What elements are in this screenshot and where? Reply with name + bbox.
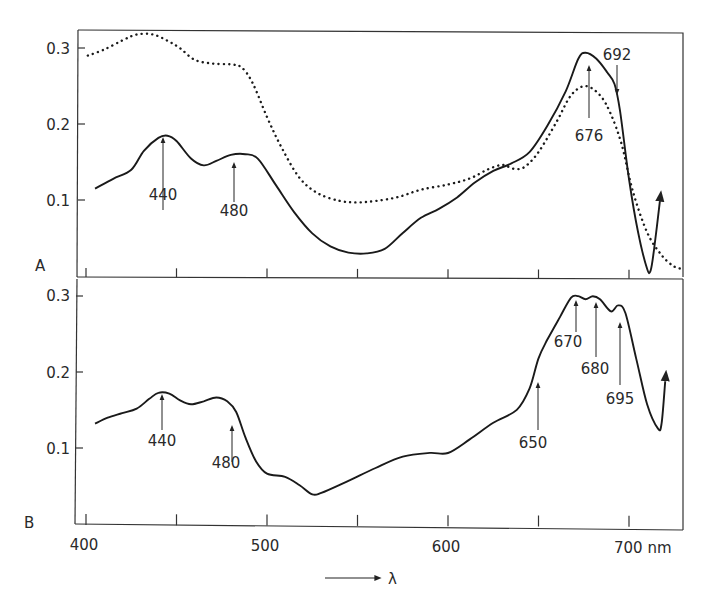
annotation-label-b-440: 440: [148, 432, 177, 450]
x-axis-label: λ: [325, 570, 397, 588]
annotation-label-b-650: 650: [519, 434, 548, 452]
panel-b-label: B: [24, 514, 34, 532]
ytick-a-0.3: 0.3: [46, 40, 70, 58]
xtick-600: 600: [432, 538, 461, 556]
peak-annotations: 440480676692440480650670680695: [148, 46, 635, 472]
annotation-label-a-440: 440: [149, 186, 178, 204]
panel-a-frame: [77, 30, 683, 277]
absorption-spectra-figure: 0.3 0.2 0.1 0.3 0.2 0.1 A B 400 500 600 …: [0, 0, 712, 611]
x-axis: [75, 524, 683, 530]
ytick-a-0.2: 0.2: [46, 116, 70, 134]
curve-b-solid: [95, 295, 665, 495]
curve-a-dotted: [88, 34, 683, 269]
spectral-curves: [88, 34, 683, 495]
panel-divider-axis: [77, 277, 683, 279]
annotation-label-b-480: 480: [212, 454, 241, 472]
annotation-label-b-680: 680: [581, 360, 610, 378]
lambda-symbol: λ: [388, 570, 397, 588]
ytick-b-0.3: 0.3: [46, 287, 70, 305]
ytick-b-0.1: 0.1: [46, 440, 70, 458]
xtick-400: 400: [70, 536, 99, 554]
curve-end-arrow-icon: [660, 196, 661, 202]
ytick-a-0.1: 0.1: [46, 192, 70, 210]
annotation-label-a-676: 676: [575, 127, 604, 145]
panel-b-frame: [75, 279, 683, 530]
axis-ticks: [76, 48, 629, 527]
annotation-label-b-670: 670: [554, 333, 583, 351]
curve-end-arrow-icon: [665, 376, 666, 382]
xtick-500: 500: [251, 537, 280, 555]
annotation-label-a-692: 692: [603, 46, 632, 64]
panel-a-label: A: [35, 257, 46, 275]
xtick-700: 700 nm: [614, 539, 672, 557]
annotation-label-a-480: 480: [220, 202, 249, 220]
ytick-b-0.2: 0.2: [46, 364, 70, 382]
curve-a-solid: [95, 53, 660, 274]
annotation-label-b-695: 695: [606, 390, 635, 408]
